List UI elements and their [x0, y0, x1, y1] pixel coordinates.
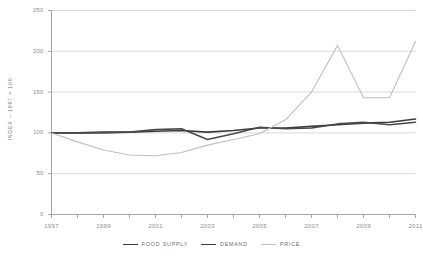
legend-item-demand[interactable]: DEMAND [201, 241, 248, 247]
legend-swatch-icon [123, 244, 138, 245]
y-tick-label-0: 0 [18, 211, 44, 217]
series-line-food-supply [52, 119, 416, 133]
x-tick-label-2011: 2011 [396, 223, 423, 229]
legend-label: PRICE [280, 241, 300, 247]
legend-label: FOOD SUPPLY [142, 241, 188, 247]
y-tick-label-250: 250 [18, 7, 44, 13]
x-tick-label-2007: 2007 [292, 223, 332, 229]
y-tick-label-200: 200 [18, 48, 44, 54]
y-tick-label-150: 150 [18, 89, 44, 95]
y-tick-label-50: 50 [18, 170, 44, 176]
axis-lines [52, 11, 416, 215]
x-tick-label-1999: 1999 [84, 223, 124, 229]
series-line-price [52, 42, 416, 156]
x-tick-label-2003: 2003 [188, 223, 228, 229]
x-tick-label-1997: 1997 [32, 223, 72, 229]
line-chart: INDEX – 1997 = 100 050100150200250 19971… [0, 0, 423, 261]
y-tick-label-100: 100 [18, 129, 44, 135]
x-tick-label-2001: 2001 [136, 223, 176, 229]
x-tick-label-2009: 2009 [344, 223, 384, 229]
legend-label: DEMAND [220, 241, 248, 247]
legend-item-food-supply[interactable]: FOOD SUPPLY [123, 241, 188, 247]
x-tick-label-2005: 2005 [240, 223, 280, 229]
legend-swatch-icon [201, 244, 216, 245]
series-lines [52, 42, 416, 156]
chart-legend: FOOD SUPPLYDEMANDPRICE [0, 241, 423, 247]
legend-swatch-icon [261, 244, 276, 245]
legend-item-price[interactable]: PRICE [261, 241, 300, 247]
tick-marks [48, 11, 416, 219]
